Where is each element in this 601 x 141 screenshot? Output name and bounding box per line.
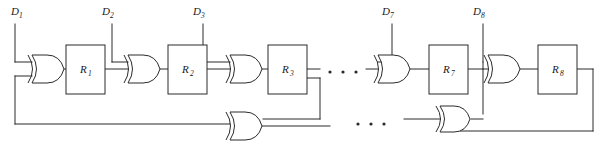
- label-r3-main: R: [281, 63, 289, 75]
- label-d2-main: D: [101, 5, 110, 17]
- xor-gate-top-2: [124, 55, 160, 83]
- label-d2-sub: 2: [110, 11, 114, 20]
- label-d7-main: D: [381, 5, 390, 17]
- xor-gate-top-7: [374, 55, 410, 83]
- xor-gate-top-3: [226, 55, 262, 83]
- label-r7-main: R: [442, 63, 450, 75]
- label-d2: D 2: [101, 5, 114, 20]
- xor-gate-feedback-left: [226, 112, 262, 140]
- label-r2-main: R: [181, 63, 189, 75]
- label-d1: D 1: [10, 5, 23, 20]
- label-r3-sub: 3: [289, 69, 294, 78]
- label-d1-main: D: [10, 5, 19, 17]
- label-r8-sub: 8: [560, 69, 564, 78]
- label-d7: D 7: [381, 5, 394, 20]
- circuit-svg: D 1 D 2 D 3 D 7 D 8 R 1 R 2 R 3: [0, 0, 601, 141]
- ellipsis-top: [328, 70, 357, 73]
- xor-gate-top-1: [28, 55, 64, 83]
- label-d7-sub: 7: [390, 11, 394, 20]
- label-d1-sub: 1: [19, 11, 23, 20]
- label-d8: D 8: [472, 5, 485, 20]
- label-r1-sub: 1: [88, 69, 92, 78]
- label-r7-sub: 7: [451, 69, 455, 78]
- xor-gate-top-8: [484, 55, 520, 83]
- label-r2-sub: 2: [190, 69, 194, 78]
- label-d3-sub: 3: [200, 11, 205, 20]
- label-d3: D 3: [192, 5, 205, 20]
- label-r1-main: R: [79, 63, 87, 75]
- label-d8-main: D: [472, 5, 481, 17]
- label-d3-main: D: [192, 5, 201, 17]
- xor-gate-feedback-right: [436, 106, 470, 132]
- label-r8-main: R: [551, 63, 559, 75]
- circuit-diagram-figure: D 1 D 2 D 3 D 7 D 8 R 1 R 2 R 3: [0, 0, 601, 141]
- ellipsis-bottom: [356, 122, 385, 125]
- label-d8-sub: 8: [481, 11, 485, 20]
